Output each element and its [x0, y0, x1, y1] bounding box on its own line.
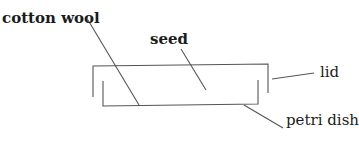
seed-leader-line [181, 49, 206, 90]
label-lid: lid [320, 65, 339, 80]
cotton-wool-leader-line [88, 20, 139, 105]
label-cotton-wool: cotton wool [2, 11, 100, 26]
petri-dish-leader-line [244, 105, 283, 128]
lid-leader-line [272, 73, 314, 79]
lid-outline [93, 64, 268, 97]
label-petri-dish: petri dish [286, 113, 359, 128]
label-seed: seed [150, 32, 188, 47]
